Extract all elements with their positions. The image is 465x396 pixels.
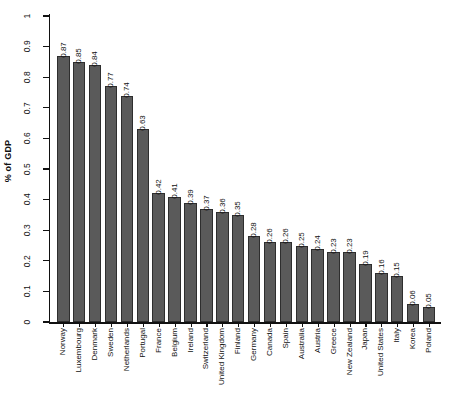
x-axis-category-label: Belgium: [168, 328, 182, 394]
x-axis-tick: [191, 323, 192, 327]
bar-value-label: 0.15: [387, 252, 408, 274]
x-axis-category-label: Poland: [422, 328, 436, 394]
x-axis-category-label-text: Korea: [409, 328, 417, 349]
bar[interactable]: [200, 209, 213, 322]
x-axis-tick: [381, 323, 382, 327]
y-axis-tick-label: 0.9: [14, 41, 40, 53]
x-axis-category-label-text: Belgium: [171, 328, 179, 357]
x-axis-category-label-text: Canada: [266, 328, 274, 356]
bar-value-label-text: 0.24: [314, 235, 322, 251]
y-axis-tick-label: 0.7: [14, 102, 40, 114]
x-axis-category-label-text: New Zealand: [346, 328, 354, 375]
x-axis-category-label-text: Ireland: [187, 328, 195, 352]
y-axis-tick-label: 1: [14, 10, 40, 22]
bar[interactable]: [216, 212, 229, 322]
bar[interactable]: [407, 304, 420, 322]
bar[interactable]: [359, 264, 372, 322]
bar[interactable]: [121, 96, 134, 322]
x-axis-tick: [222, 323, 223, 327]
bar[interactable]: [57, 56, 70, 322]
y-axis-title-text: % of GDP: [3, 140, 13, 183]
x-axis-category-label: Germany: [247, 328, 261, 394]
x-axis-category-label: United States: [374, 328, 388, 394]
y-axis-tick-label-text: 1: [23, 14, 32, 19]
y-axis-tick-label-text: 0.3: [23, 224, 32, 236]
x-axis-category-label: Switzerland: [199, 328, 213, 394]
y-axis-tick: [43, 260, 50, 261]
x-axis-category-label: Portugal: [136, 328, 150, 394]
bar-value-label-text: 0.41: [171, 183, 179, 199]
bar[interactable]: [168, 197, 181, 322]
y-axis-tick: [43, 107, 50, 108]
y-axis-tick-label: 0.4: [14, 194, 40, 206]
y-axis-tick-label-text: 0.4: [23, 194, 32, 206]
bar[interactable]: [248, 236, 261, 322]
bar[interactable]: [89, 65, 102, 322]
y-axis-tick-label-text: 0.8: [23, 71, 32, 83]
x-axis-category-label-text: Netherlands: [123, 328, 131, 371]
x-axis-category-label: Norway: [56, 328, 70, 394]
x-axis-tick: [350, 323, 351, 327]
x-axis-category-label: Luxembourg: [72, 328, 86, 394]
bar[interactable]: [105, 86, 118, 322]
bar[interactable]: [137, 129, 150, 322]
bar[interactable]: [184, 203, 197, 322]
x-axis-category-label: Canada: [263, 328, 277, 394]
bar[interactable]: [73, 62, 86, 322]
y-axis-tick-label: 0.8: [14, 71, 40, 83]
bar[interactable]: [296, 246, 309, 323]
y-axis-tick-label-text: 0.2: [23, 255, 32, 267]
bar[interactable]: [343, 252, 356, 322]
x-axis-category-label-text: Luxembourg: [75, 328, 83, 372]
x-axis-tick: [63, 323, 64, 327]
y-axis-tick: [43, 230, 50, 231]
x-axis-category-label: New Zealand: [343, 328, 357, 394]
bar-value-label-text: 0.16: [377, 259, 385, 275]
x-axis-tick: [270, 323, 271, 327]
x-axis-tick: [334, 323, 335, 327]
bar[interactable]: [264, 242, 277, 322]
y-axis-tick: [43, 168, 50, 169]
bar[interactable]: [152, 193, 165, 322]
bar-value-label-text: 0.84: [91, 51, 99, 67]
x-axis-category-label-text: Australia: [298, 328, 306, 359]
x-axis-tick: [302, 323, 303, 327]
bar-value-label-text: 0.19: [361, 250, 369, 266]
bar[interactable]: [391, 276, 404, 322]
x-axis-category-label-text: Switzerland: [202, 328, 210, 369]
x-axis-category-label-text: Japan: [361, 328, 369, 350]
x-axis-tick: [206, 323, 207, 327]
x-axis-tick: [95, 323, 96, 327]
x-axis-tick: [429, 323, 430, 327]
x-axis-category-label: France: [152, 328, 166, 394]
x-axis-tick: [143, 323, 144, 327]
y-axis-tick: [43, 291, 50, 292]
bar-value-label-text: 0.23: [345, 238, 353, 254]
bar[interactable]: [423, 307, 436, 322]
bar[interactable]: [327, 252, 340, 322]
bar[interactable]: [311, 249, 324, 322]
x-axis-category-label-text: Norway: [59, 328, 67, 355]
bar[interactable]: [375, 273, 388, 322]
x-axis-tick: [79, 323, 80, 327]
bar[interactable]: [232, 215, 245, 322]
bar[interactable]: [280, 242, 293, 322]
x-axis-category-label-text: Portugal: [139, 328, 147, 358]
x-axis-tick: [318, 323, 319, 327]
y-axis-tick: [43, 138, 50, 139]
bar-chart: % of GDP 00.10.20.30.40.50.60.70.80.91 0…: [0, 0, 465, 396]
bar-value-label-text: 0.06: [409, 290, 417, 306]
x-axis-tick: [254, 323, 255, 327]
x-axis-category-label-text: United Kingdom: [218, 328, 226, 385]
bar-value-label: 0.74: [117, 72, 138, 94]
bar-value-label-text: 0.63: [139, 115, 147, 131]
x-axis-category-label: Australia: [295, 328, 309, 394]
y-axis-tick: [43, 77, 50, 78]
x-axis-category-label: Finland: [231, 328, 245, 394]
bar-value-label-text: 0.85: [75, 48, 83, 64]
x-axis-category-label: Greece: [327, 328, 341, 394]
x-axis-category-label: Sweden: [104, 328, 118, 394]
x-axis-category-label: Ireland: [184, 328, 198, 394]
y-axis-tick-label: 0.3: [14, 224, 40, 236]
y-axis-tick-label-text: 0.6: [23, 132, 32, 144]
